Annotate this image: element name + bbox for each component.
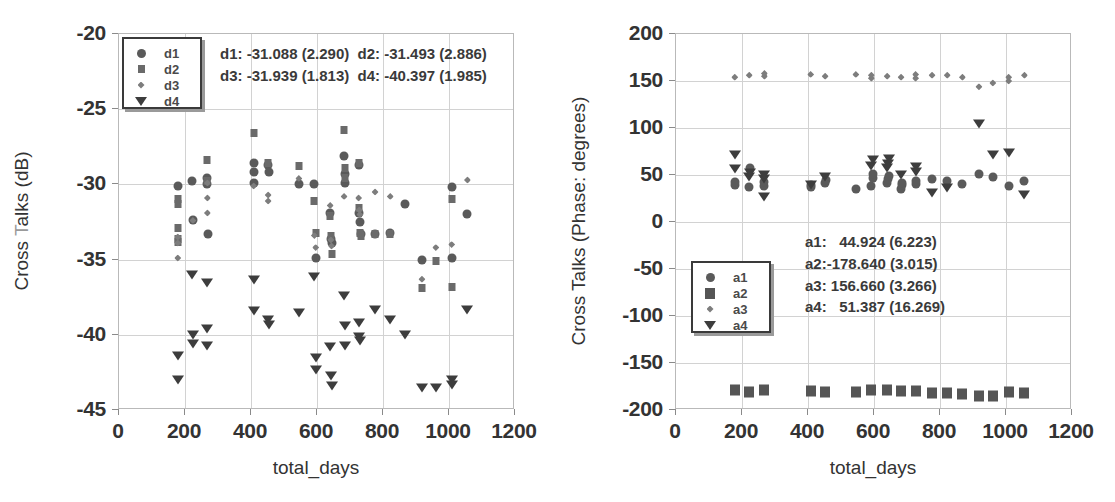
y-axis-tick-label: -200 [557,397,663,421]
data-point-a2 [730,385,740,396]
gridline-horizontal [676,222,1070,223]
legend-item-a2[interactable]: a2 [697,285,765,301]
y-axis-tick-label: -20 [0,21,106,45]
y-axis-tick-label: -45 [0,397,106,421]
y-axis-tick-label: 200 [557,21,663,45]
data-point-a2 [988,390,998,401]
data-point-d3 [387,193,394,200]
x-axis-tick [807,409,808,415]
legend-item-d1[interactable]: d1 [128,45,196,61]
x-axis-tick [741,409,742,415]
data-point-a4 [941,184,953,193]
y-axis-tick [669,33,675,34]
data-point-d1 [310,180,319,189]
y-axis-tick [669,174,675,175]
data-point-d4 [339,322,351,331]
data-point-d1 [447,183,456,192]
data-point-a3 [959,74,966,81]
legend-item-d2[interactable]: d2 [128,61,196,77]
data-point-d2 [449,283,456,291]
data-point-d1 [355,218,364,227]
data-point-d2 [327,212,334,220]
legend-item-a4[interactable]: a4 [697,317,765,333]
gridline-horizontal [676,128,1070,129]
data-point-d2 [342,174,349,182]
data-point-d3 [355,194,362,201]
data-point-d3 [372,188,379,195]
data-point-d4 [248,307,260,316]
diamond-marker-icon [128,82,154,89]
data-point-d4 [293,308,305,317]
data-point-d4 [384,316,396,325]
legend-left[interactable]: d1d2d3d4 [122,37,202,109]
x-axis-tick-label: 800 [922,419,956,443]
data-point-a2 [1019,388,1029,399]
legend-right[interactable]: a1a2a3a4 [691,261,771,333]
data-point-a4 [1003,149,1015,158]
square-marker-icon [697,288,723,299]
x-axis-tick-label: 400 [233,419,267,443]
data-point-a4 [744,169,756,178]
x-axis-tick-label: 0 [669,419,680,443]
data-point-d4 [201,341,213,350]
legend-item-a1[interactable]: a1 [697,269,765,285]
legend-item-d3[interactable]: d3 [128,77,196,93]
y-axis-tick [669,362,675,363]
x-axis-tick-label: 600 [299,419,333,443]
data-point-d4 [461,305,473,314]
data-point-d2 [341,164,348,172]
gridline-vertical [742,34,743,408]
data-point-d4 [326,382,338,391]
stats-annotation-right: a1: 44.924 (6.223)a2:-178.640 (3.015)a3:… [805,231,945,318]
data-point-a2 [911,386,921,397]
y-axis-tick [112,334,118,335]
legend-item-a3[interactable]: a3 [697,301,765,317]
data-point-a3 [975,83,982,90]
data-point-a2 [744,387,754,398]
data-point-a3 [731,74,738,81]
data-point-d4 [339,341,351,350]
y-axis-tick-label: 0 [557,209,663,233]
data-point-d2 [357,232,364,240]
data-point-d1 [173,181,182,190]
gridline-vertical [383,34,384,408]
x-axis-tick-label: 0 [112,419,123,443]
legend-item-d4[interactable]: d4 [128,93,196,109]
y-axis-tick [112,183,118,184]
panel-crosstalk-db: Cross Talks (dB) d1d2d3d4 d1: -31.088 (2… [0,0,557,502]
gridline-vertical [940,34,941,408]
x-axis-title-left: total_days [118,457,514,479]
data-point-d1 [448,254,457,263]
data-point-a3 [929,72,936,79]
data-point-d4 [201,325,213,334]
data-point-d1 [463,210,472,219]
x-axis-tick-label: 1000 [425,419,471,443]
data-point-d2 [311,197,318,205]
circle-marker-icon [697,273,723,282]
data-point-d2 [387,230,394,238]
y-axis-tick [112,259,118,260]
x-axis-tick-label: 1200 [491,419,537,443]
x-axis-tick [1071,409,1072,415]
data-point-a1 [912,176,921,185]
data-point-d1 [265,168,274,177]
diamond-marker-icon [697,306,723,313]
x-axis-tick [250,409,251,415]
plot-area-right [675,33,1071,409]
data-point-d3 [204,209,211,216]
data-point-a1 [974,170,983,179]
data-point-a3 [822,73,829,80]
data-point-d4 [338,292,350,301]
data-point-d4 [263,320,275,329]
y-axis-tick [112,33,118,34]
data-point-a4 [1018,190,1030,199]
y-axis-tick-label: -50 [557,256,663,280]
y-axis-tick [669,80,675,81]
data-point-a1 [958,180,967,189]
data-point-d2 [328,250,335,258]
data-point-d2 [174,224,181,232]
data-point-a4 [758,170,770,179]
y-axis-tick [669,127,675,128]
data-point-d4 [310,365,322,374]
y-axis-tick-label: 50 [557,162,663,186]
